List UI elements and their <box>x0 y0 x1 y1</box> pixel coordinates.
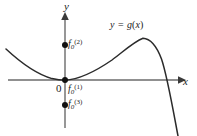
point-label-f0-3: f0(3) <box>68 99 82 111</box>
curve-label-equals: = <box>114 19 127 30</box>
point-label-f0-2: f0(2) <box>68 39 82 51</box>
x-axis <box>8 76 186 84</box>
point-label-f0-1: f0(1) <box>68 84 82 96</box>
point-label-f0-3-superscript: (3) <box>74 98 82 106</box>
curve-equation-label: y = g(x) <box>110 20 143 30</box>
y-axis-label: y <box>64 1 69 12</box>
point-label-f0-2-superscript: (2) <box>74 38 82 46</box>
point-label-f0-1-superscript: (1) <box>74 83 82 91</box>
origin-label: 0 <box>56 83 62 94</box>
y-axis-arrow-icon <box>61 12 69 20</box>
curve-label-close-paren: ) <box>140 19 143 30</box>
function-curve-g <box>6 38 178 136</box>
figure-container: y x 0 f0(1) f0(2) f0(3) y = g(x) <box>0 0 197 136</box>
x-axis-label: x <box>183 76 188 87</box>
graph-canvas <box>0 0 197 136</box>
